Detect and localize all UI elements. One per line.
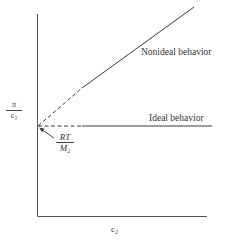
- intercept-label: RT M₂: [56, 132, 74, 154]
- intercept-label-denominator: M₂: [56, 143, 74, 154]
- osmotic-pressure-plot: [0, 0, 225, 246]
- nonideal-line-extrapolation: [38, 88, 82, 126]
- intercept-arrow-icon: [39, 128, 54, 139]
- x-axis-label: c₂: [111, 224, 118, 234]
- y-axis-label-numerator: π: [6, 100, 22, 111]
- intercept-label-numerator: RT: [56, 132, 74, 143]
- y-axis-label: π c₂: [6, 100, 22, 121]
- y-axis-label-denominator: c₂: [6, 111, 22, 121]
- ideal-behavior-label: Ideal behavior: [149, 113, 204, 123]
- nonideal-behavior-label: Nonideal behavior: [141, 47, 211, 57]
